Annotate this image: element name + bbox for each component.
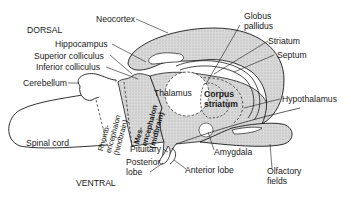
ventral-label: VENTRAL: [76, 179, 116, 188]
hypothalamus-label: Hypothalamus: [282, 95, 337, 104]
amygdala-label: Amygdala: [214, 148, 252, 157]
thalamus-label: Thalamus: [154, 89, 192, 98]
dorsal-label: DORSAL: [27, 26, 62, 35]
cerebellum-label: Cerebellum: [23, 79, 67, 88]
spinal-cord-label: Spinal cord: [26, 139, 69, 148]
corpus-striatum-label: Corpus striatum: [204, 90, 238, 109]
inferior-colliculus-label: Inferior colliculus: [36, 63, 100, 72]
posterior-lobe-label: Posterior lobe: [126, 158, 160, 177]
neocortex-label: Neocortex: [96, 15, 135, 24]
olfactory-fields-label: Olfactory fields: [267, 167, 301, 186]
pituitary-label: Pituitary: [130, 145, 161, 154]
striatum-label: Striatum: [268, 37, 300, 46]
amygdala-shape: [199, 123, 213, 137]
anterior-lobe-label: Anterior lobe: [185, 166, 234, 175]
globus-pallidus-label: Globus pallidus: [244, 12, 273, 31]
superior-colliculus-label: Superior colliculus: [34, 52, 104, 61]
hippocampus-label: Hippocampus: [55, 40, 108, 49]
septum-label: Septum: [277, 51, 307, 60]
